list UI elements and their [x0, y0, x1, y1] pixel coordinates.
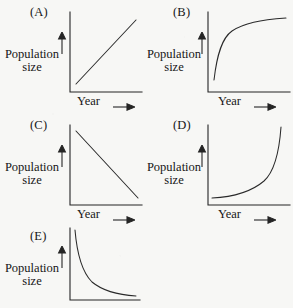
panel-e-plot	[68, 228, 146, 306]
panel-a-right-arrow-icon	[113, 98, 135, 108]
panel-e-y-axis-label: Population size	[0, 262, 64, 288]
panel-b-y-axis-label-line1: Population	[147, 47, 201, 61]
panel-c-x-axis-label: Year	[77, 208, 100, 221]
panel-a-y-axis-label-line2: size	[0, 61, 64, 74]
panel-a-y-axis-label-line1: Population	[5, 47, 59, 61]
panel-c-label: (C)	[30, 119, 47, 132]
panel-b-label: (B)	[173, 6, 190, 19]
panel-a-plot	[68, 12, 144, 94]
panel-d-plot	[206, 125, 292, 207]
panel-d: (D) Population size Year	[140, 113, 293, 225]
panel-a-y-axis-label: Population size	[0, 48, 64, 74]
panel-c-y-axis-label-line1: Population	[5, 160, 59, 174]
panel-a-up-arrow-icon	[56, 32, 68, 54]
panel-a-label: (A)	[30, 6, 48, 19]
panel-e-up-arrow-icon	[56, 246, 68, 268]
panel-c-y-axis-label: Population size	[0, 161, 64, 187]
panel-d-y-axis-label-line2: size	[142, 174, 206, 187]
panel-c: (C) Population size Year	[0, 113, 146, 225]
panel-d-right-arrow-icon	[254, 211, 276, 221]
panel-c-up-arrow-icon	[56, 145, 68, 167]
panel-d-label: (D)	[173, 119, 191, 132]
panel-e-y-axis-label-line2: size	[0, 275, 64, 288]
panel-e-y-axis-label-line1: Population	[5, 261, 59, 275]
panel-b: (B) Population size Year	[140, 0, 293, 112]
panel-e: (E) Population size	[0, 226, 160, 308]
panel-d-x-axis-label: Year	[218, 208, 241, 221]
panel-e-label: (E)	[30, 230, 47, 243]
panel-a: (A) Population size Year	[0, 0, 146, 112]
panel-d-y-axis-label-line1: Population	[147, 160, 201, 174]
panel-c-plot	[68, 125, 144, 207]
panel-b-x-axis-label: Year	[218, 95, 241, 108]
figure-root: (A) Population size Year (B)	[0, 0, 293, 308]
panel-b-right-arrow-icon	[254, 98, 276, 108]
panel-c-y-axis-label-line2: size	[0, 174, 64, 187]
panel-b-plot	[206, 12, 292, 94]
panel-a-x-axis-label: Year	[77, 95, 100, 108]
panel-b-y-axis-label-line2: size	[142, 61, 206, 74]
panel-c-right-arrow-icon	[113, 211, 135, 221]
